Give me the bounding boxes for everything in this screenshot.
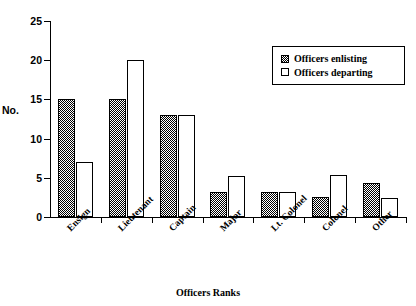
bar-enlisting bbox=[160, 115, 177, 217]
y-axis-tick-label: 5 bbox=[36, 173, 42, 184]
bar-enlisting bbox=[58, 99, 75, 217]
y-axis-tick bbox=[44, 21, 50, 22]
x-axis-tick bbox=[355, 217, 356, 223]
y-axis-tick bbox=[44, 217, 50, 218]
legend-item-enlisting: Officers enlisting bbox=[281, 52, 398, 66]
y-axis-tick-label: 10 bbox=[30, 133, 42, 144]
legend-swatch-enlisting-icon bbox=[281, 55, 289, 63]
y-axis-tick-label: 0 bbox=[36, 212, 42, 223]
x-axis-tick bbox=[152, 217, 153, 223]
y-axis-line bbox=[50, 21, 51, 218]
y-axis-tick bbox=[44, 178, 50, 179]
legend-label-enlisting: Officers enlisting bbox=[294, 52, 367, 66]
y-axis-tick-label: 20 bbox=[30, 55, 42, 66]
x-axis-tick bbox=[101, 217, 102, 223]
x-axis-title: Officers Ranks bbox=[0, 287, 416, 298]
x-axis-tick bbox=[406, 217, 407, 223]
y-axis-tick-label: 25 bbox=[30, 16, 42, 27]
x-axis-tick bbox=[203, 217, 204, 223]
bar-enlisting bbox=[210, 192, 227, 217]
bar-enlisting bbox=[109, 99, 126, 217]
bar-enlisting bbox=[363, 183, 380, 217]
y-axis-tick bbox=[44, 139, 50, 140]
x-axis-tick bbox=[253, 217, 254, 223]
legend-label-departing: Officers departing bbox=[294, 66, 373, 80]
y-axis-tick bbox=[44, 99, 50, 100]
bar-departing bbox=[127, 60, 144, 217]
bar-enlisting bbox=[312, 197, 329, 217]
legend-swatch-departing-icon bbox=[281, 68, 289, 76]
x-axis-tick bbox=[304, 217, 305, 223]
y-axis-tick bbox=[44, 60, 50, 61]
bar-chart: No. 0510152025EnsignLieutenantCaptainMaj… bbox=[0, 0, 416, 306]
chart-legend: Officers enlisting Officers departing bbox=[272, 46, 405, 85]
y-axis-tick-label: 15 bbox=[30, 94, 42, 105]
y-axis-title: No. bbox=[2, 104, 19, 116]
bar-enlisting bbox=[261, 192, 278, 217]
bar-departing bbox=[178, 115, 195, 217]
legend-item-departing: Officers departing bbox=[281, 66, 398, 80]
